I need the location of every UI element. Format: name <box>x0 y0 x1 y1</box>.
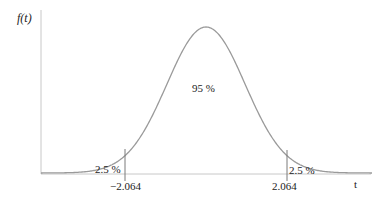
right-tail-area-label: 2.5 % <box>289 165 315 176</box>
lower-critical-value: −2.064 <box>110 181 141 192</box>
x-axis-label: t <box>354 179 357 190</box>
upper-critical-value: 2.064 <box>272 181 297 192</box>
density-curve <box>41 27 372 173</box>
left-tail-area-label: 2.5 % <box>95 164 121 175</box>
y-axis-label: f(t) <box>17 12 32 24</box>
t-distribution-chart <box>0 0 390 210</box>
center-area-label: 95 % <box>192 83 215 94</box>
